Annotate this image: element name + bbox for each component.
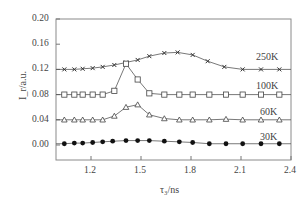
y-tick-label: 0.20: [32, 13, 49, 23]
data-point-marker: [147, 138, 152, 143]
x-axis-label: τ₃/ns: [160, 184, 179, 195]
data-point-marker: [277, 141, 282, 146]
series-label-30k: 30K: [260, 131, 277, 142]
data-point-marker: [72, 141, 77, 146]
x-tick-label: 2.4: [284, 165, 296, 175]
data-point-marker: [110, 139, 115, 144]
series-line: [56, 105, 291, 120]
x-tick-label: 2.1: [234, 165, 246, 175]
data-point-marker: [223, 92, 228, 97]
data-point-marker: [162, 92, 167, 97]
series-label-250k: 250K: [256, 51, 278, 62]
y-tick-label: 0.04: [32, 114, 49, 124]
data-point-marker: [190, 140, 195, 145]
data-point-marker: [190, 92, 195, 97]
data-point-marker: [177, 139, 182, 144]
x-tick-label: 1.8: [184, 165, 196, 175]
data-point-marker: [135, 102, 141, 107]
data-point-marker: [206, 59, 210, 63]
x-tick-label: 1.2: [84, 165, 96, 175]
y-tick-label: 0.16: [32, 38, 49, 48]
data-point-marker: [135, 138, 140, 143]
y-axis-label: I_r/a.u.: [17, 71, 28, 100]
data-point-marker: [100, 92, 105, 97]
y-tick-label: 0.08: [32, 89, 49, 99]
data-point-marker: [207, 141, 212, 146]
data-point-marker: [80, 92, 85, 97]
series-group: [56, 50, 291, 146]
data-point-marker: [124, 138, 129, 143]
data-point-marker: [207, 92, 212, 97]
data-point-marker: [72, 92, 77, 97]
y-axis-ticks: [56, 19, 60, 145]
data-point-marker: [177, 92, 182, 97]
data-point-marker: [224, 141, 229, 146]
data-point-marker: [112, 113, 118, 118]
data-point-marker: [240, 141, 245, 146]
y-tick-label: 0.00: [32, 139, 49, 149]
x-tick-label: 1.5: [134, 165, 146, 175]
data-point-marker: [147, 91, 152, 96]
data-point-marker: [62, 141, 67, 146]
data-point-marker: [240, 92, 245, 97]
line-chart: [0, 0, 308, 203]
data-point-marker: [80, 141, 85, 146]
data-point-marker: [258, 92, 263, 97]
data-point-marker: [162, 139, 167, 144]
data-point-marker: [123, 61, 128, 66]
data-point-marker: [259, 141, 264, 146]
x-axis-ticks: [91, 156, 291, 160]
series-60k: [56, 102, 291, 122]
series-label-100k: 100K: [256, 80, 278, 91]
series-label-60k: 60K: [260, 106, 277, 117]
data-point-marker: [100, 139, 105, 144]
data-point-marker: [277, 92, 282, 97]
data-point-marker: [112, 88, 117, 93]
data-point-marker: [90, 140, 95, 145]
data-point-marker: [90, 92, 95, 97]
data-point-marker: [135, 77, 140, 82]
y-tick-label: 0.12: [32, 63, 49, 73]
series-30k: [56, 138, 291, 146]
data-point-marker: [62, 92, 67, 97]
